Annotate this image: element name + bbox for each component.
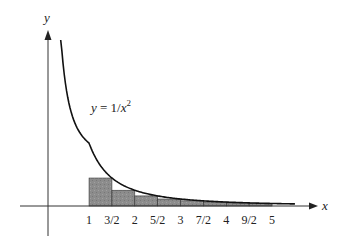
x-tick-label: 3/2 bbox=[104, 213, 119, 227]
x-tick-label: 5/2 bbox=[150, 213, 165, 227]
x-tick-label: 9/2 bbox=[242, 213, 257, 227]
x-axis-arrow-icon bbox=[309, 203, 318, 210]
riemann-rectangle bbox=[112, 190, 135, 206]
y-axis-arrow-icon bbox=[45, 30, 52, 40]
riemann-rectangle bbox=[158, 199, 181, 206]
riemann-rectangle bbox=[135, 196, 158, 206]
x-tick-labels: 13/225/237/249/25 bbox=[86, 213, 275, 227]
x-tick-label: 4 bbox=[223, 213, 229, 227]
riemann-rectangle bbox=[181, 201, 204, 206]
x-tick-label: 3 bbox=[178, 213, 184, 227]
function-label: y = 1/x2 bbox=[89, 98, 131, 115]
x-tick-label: 2 bbox=[132, 213, 138, 227]
x-tick-label: 1 bbox=[86, 213, 92, 227]
x-tick-label: 7/2 bbox=[196, 213, 211, 227]
riemann-rectangle bbox=[89, 178, 112, 206]
riemann-sum-chart: y x y = 1/x2 13/225/237/249/25 bbox=[0, 0, 346, 252]
x-tick-label: 5 bbox=[269, 213, 275, 227]
x-axis-label: x bbox=[321, 198, 328, 213]
y-axis-label: y bbox=[42, 10, 50, 25]
